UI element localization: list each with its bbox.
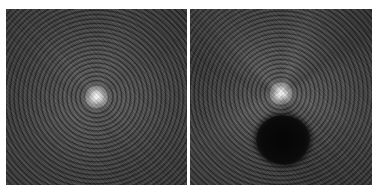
left-ring-pattern-panel: [6, 9, 187, 185]
noise-texture: [6, 9, 187, 185]
right-ring-pattern-panel: [190, 9, 372, 185]
dark-occlusion-blob: [256, 115, 310, 165]
